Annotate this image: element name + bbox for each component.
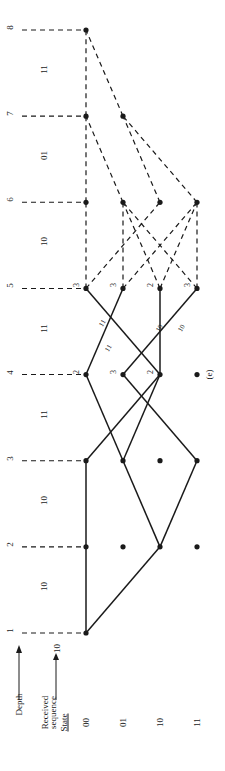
trellis-node [157,200,162,205]
trellis-node [83,200,88,205]
trellis-node [194,286,199,291]
survivor-edge [86,375,160,461]
received-initial-marker: 10 [53,640,62,658]
received-bits-6-7: 01 [40,147,49,165]
received-bits-7-8: 11 [40,61,49,79]
figure-label: (e) [205,366,214,384]
depth-label-3: 3 [6,450,15,466]
metric-d4-s00: 2 [73,364,81,380]
state-label-11: 11 [193,714,202,732]
trellis-canvas [0,0,225,771]
received-bits-1-2: 10 [40,577,49,595]
depth-label-2: 2 [6,536,15,552]
tentative-edge [123,202,160,288]
depth-label-7: 7 [6,106,15,122]
trellis-node [83,286,88,291]
survivor-edge [123,375,160,461]
trellis-node [157,286,162,291]
trellis-node [120,286,125,291]
trellis-node [194,458,199,463]
survivor-edge [86,288,160,374]
survivor-edge [86,547,160,633]
survivor-edge [86,288,123,374]
trellis-node [194,372,199,377]
survivor-edge [123,461,160,547]
metric-d5-s00: 3 [73,277,81,293]
trellis-node [120,114,125,119]
depth-label-1: 1 [6,623,15,639]
trellis-node [83,114,88,119]
metric-d4-s10: 2 [147,364,155,380]
depth-axis-title: Depth [15,680,24,730]
tentative-edge [123,116,197,202]
metric-d5-s10: 2 [147,277,155,293]
survivor-edge [123,375,197,461]
depth-label-6: 6 [6,192,15,208]
trellis-node [194,544,199,549]
received-bits-4-5: 11 [40,319,49,337]
trellis-node [157,544,162,549]
trellis-node [157,458,162,463]
trellis-node [120,372,125,377]
received-bits-5-6: 10 [40,233,49,251]
depth-label-4: 4 [6,364,15,380]
tentative-edge [86,30,123,116]
state-label-01: 01 [119,714,128,732]
metric-d4-s01: 3 [110,364,118,380]
tentative-edge [123,202,197,288]
received-axis-title-line2: sequence [49,685,58,741]
trellis-node [83,372,88,377]
received-bits-2-3: 10 [40,491,49,509]
trellis-figure: Depth Received sequence State (e) 123456… [0,0,225,771]
depth-label-8: 8 [6,20,15,36]
state-label-10: 10 [156,714,165,732]
trellis-node [120,458,125,463]
trellis-node [120,200,125,205]
depth-axis-arrowhead [16,645,22,653]
tentative-edge [86,116,123,202]
state-label-00: 00 [82,714,91,732]
trellis-node [120,544,125,549]
state-axis-title: State [60,706,69,740]
trellis-node [83,544,88,549]
survivor-edge [86,375,123,461]
depth-label-5: 5 [6,278,15,294]
received-bits-3-4: 11 [40,405,49,423]
trellis-node [83,27,88,32]
trellis-node [157,372,162,377]
tentative-edge [160,202,197,288]
metric-d5-s11: 3 [184,277,192,293]
trellis-node [194,200,199,205]
survivor-edge [160,461,197,547]
trellis-node [83,630,88,635]
trellis-node [83,458,88,463]
metric-d5-s01: 3 [110,277,118,293]
tentative-edge [123,116,160,202]
